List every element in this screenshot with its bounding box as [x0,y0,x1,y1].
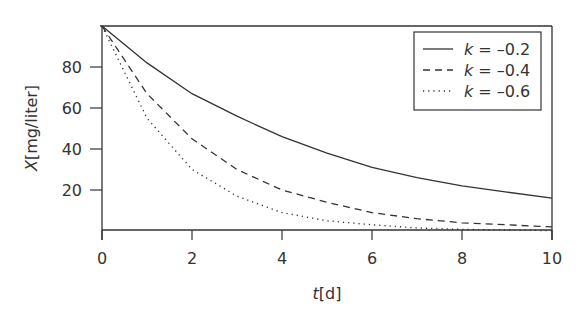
y-tick-label: 20 [62,181,82,200]
x-tick-label: 8 [457,249,467,268]
y-tick-label: 60 [62,99,82,118]
y-axis-label: X[mg/liter] [22,85,41,172]
x-tick-label: 4 [277,249,287,268]
x-tick-label: 10 [542,249,562,268]
legend-label: k = –0.4 [464,61,530,80]
x-tick-label: 6 [367,249,377,268]
legend-label: k = –0.6 [464,82,530,101]
legend-label: k = –0.2 [464,40,530,59]
x-tick-label: 2 [187,249,197,268]
legend: k = –0.2k = –0.4k = –0.6 [414,32,541,110]
y-tick-label: 80 [62,58,82,77]
chart: 024681020406080 k = –0.2k = –0.4k = –0.6… [0,0,578,318]
x-tick-label: 0 [97,249,107,268]
y-tick-label: 40 [62,140,82,159]
x-axis-label: t[d] [313,284,342,303]
